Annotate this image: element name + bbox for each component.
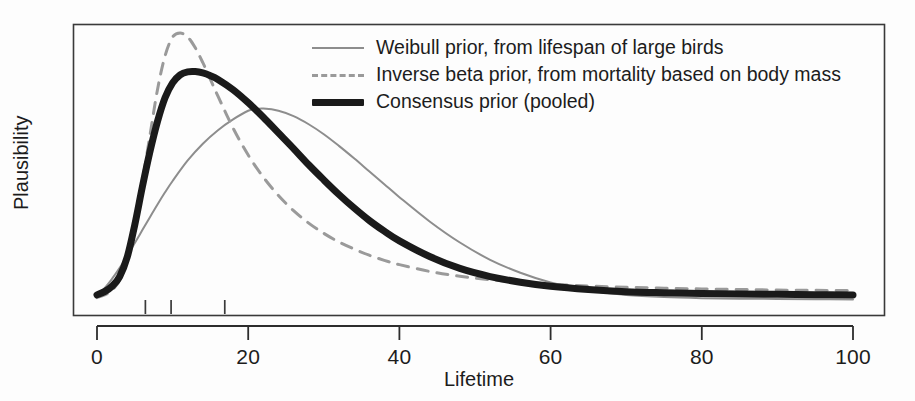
legend-key-line-solid-thin — [312, 39, 364, 57]
x-axis-tick-label: 20 — [236, 345, 260, 369]
x-axis-tick-label: 40 — [388, 345, 412, 369]
legend-key-line-dashed — [312, 66, 364, 84]
legend-item-consensus: Consensus prior (pooled) — [312, 91, 595, 113]
x-axis-title: Lifetime — [444, 368, 514, 391]
x-axis-tick-label: 0 — [91, 345, 103, 369]
x-axis-ticks — [97, 326, 853, 340]
rug-marks-group — [145, 300, 224, 314]
chart-figure: 020406080100 Lifetime Plausibility Weibu… — [0, 0, 915, 401]
legend-label-consensus: Consensus prior (pooled) — [376, 92, 595, 112]
x-axis-tick-label: 80 — [690, 345, 714, 369]
y-axis-title: Plausibility — [10, 10, 33, 210]
legend-item-weibull: Weibull prior, from lifespan of large bi… — [312, 37, 724, 59]
plot-area — [0, 0, 915, 401]
legend-label-inverse-beta: Inverse beta prior, from mortality based… — [376, 65, 841, 85]
x-axis-tick-label: 100 — [835, 345, 871, 369]
legend-label-weibull: Weibull prior, from lifespan of large bi… — [376, 38, 724, 58]
x-axis-tick-label: 60 — [539, 345, 563, 369]
legend-item-inverse-beta: Inverse beta prior, from mortality based… — [312, 64, 841, 86]
legend-key-line-solid-thick — [312, 93, 364, 111]
